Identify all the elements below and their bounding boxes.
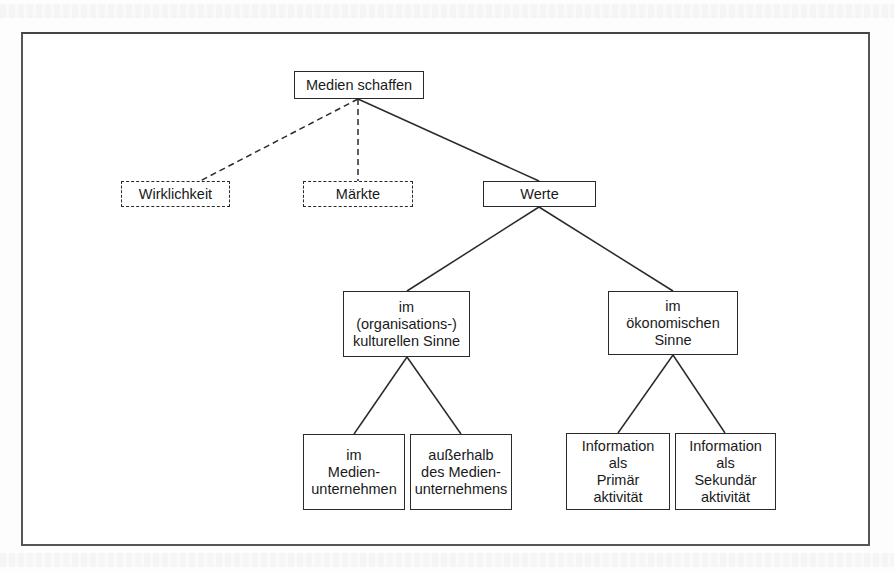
scan-bleed-through-top — [0, 4, 894, 18]
node-label-line: im — [346, 447, 361, 464]
node-label-line: Medien- — [328, 464, 380, 481]
node-ausserhalb-medienunternehmen: außerhalb des Medien- unternehmens — [410, 434, 512, 510]
node-label-line: als — [609, 455, 628, 472]
node-sekundaeraktivitaet: Information als Sekundär aktivität — [675, 433, 776, 510]
node-label-line: Sinne — [654, 332, 691, 349]
node-oekonomisch: im ökonomischen Sinne — [608, 291, 738, 355]
node-label-line: Primär — [597, 472, 640, 489]
node-label: Werte — [520, 186, 558, 203]
node-label-line: des Medien- — [421, 464, 501, 481]
node-primaeraktivitaet: Information als Primär aktivität — [566, 433, 670, 510]
node-label-line: unternehmens — [415, 481, 508, 498]
node-label: Medien schaffen — [306, 77, 412, 94]
node-im-medienunternehmen: im Medien- unternehmen — [303, 434, 405, 510]
node-wirklichkeit: Wirklichkeit — [121, 181, 230, 207]
node-label-line: aktivität — [593, 489, 642, 506]
node-label-line: unternehmen — [311, 481, 396, 498]
node-label-line: außerhalb — [428, 447, 493, 464]
node-label-line: Information — [582, 438, 655, 455]
node-maerkte: Märkte — [303, 181, 413, 207]
node-label-line: (organisations-) — [356, 316, 457, 333]
scan-bleed-through-bottom — [0, 553, 894, 567]
node-label-line: ökonomischen — [626, 315, 720, 332]
node-label-line: kulturellen Sinne — [353, 333, 460, 350]
node-label: Wirklichkeit — [139, 186, 212, 203]
node-medien-schaffen: Medien schaffen — [294, 71, 424, 99]
node-label: Märkte — [336, 186, 380, 203]
node-kulturell: im (organisations-) kulturellen Sinne — [343, 291, 470, 357]
node-label-line: aktivität — [701, 489, 750, 506]
node-label-line: Sekundär — [694, 472, 756, 489]
node-label-line: Information — [689, 438, 762, 455]
node-label-line: im — [399, 299, 414, 316]
node-werte: Werte — [483, 181, 596, 207]
node-label-line: im — [665, 298, 680, 315]
node-label-line: als — [716, 455, 735, 472]
